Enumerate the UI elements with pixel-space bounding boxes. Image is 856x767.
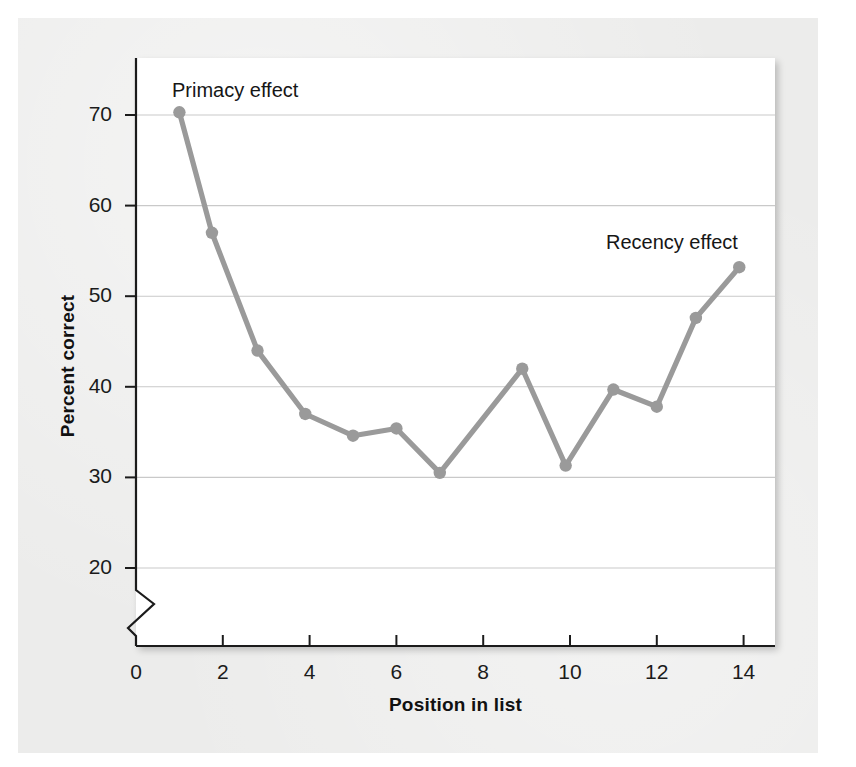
data-point xyxy=(251,344,263,356)
data-point xyxy=(434,467,446,479)
series-line xyxy=(179,112,739,473)
series-markers xyxy=(173,106,745,479)
x-tick-label: 4 xyxy=(290,660,330,684)
y-tick-label: 60 xyxy=(68,193,112,217)
y-tick-label: 70 xyxy=(68,102,112,126)
data-point xyxy=(733,261,745,273)
data-point xyxy=(299,408,311,420)
y-axis-label: Percent correct xyxy=(57,266,79,466)
data-point xyxy=(607,383,619,395)
gridlines xyxy=(136,115,775,568)
x-tick-label: 12 xyxy=(637,660,677,684)
data-point xyxy=(173,106,185,118)
y-axis-ticks xyxy=(125,115,136,568)
x-tick-label: 8 xyxy=(463,660,503,684)
data-point xyxy=(390,422,402,434)
figure-page: 203040506070 02468101214 Percent correct… xyxy=(0,0,856,767)
data-point xyxy=(690,312,702,324)
x-tick-label: 0 xyxy=(116,660,156,684)
line-chart xyxy=(0,0,856,767)
data-point xyxy=(651,401,663,413)
axis-lines xyxy=(128,58,775,646)
x-axis-ticks xyxy=(223,635,744,646)
annotation-recency-effect: Recency effect xyxy=(606,231,738,254)
data-point xyxy=(347,430,359,442)
x-tick-label: 2 xyxy=(203,660,243,684)
x-tick-label: 10 xyxy=(550,660,590,684)
x-tick-label: 14 xyxy=(724,660,764,684)
data-point xyxy=(206,227,218,239)
data-series xyxy=(173,106,745,479)
data-point xyxy=(559,459,571,471)
y-tick-label: 30 xyxy=(68,464,112,488)
annotation-primacy-effect: Primacy effect xyxy=(172,79,298,102)
y-tick-label: 20 xyxy=(68,555,112,579)
x-tick-label: 6 xyxy=(376,660,416,684)
data-point xyxy=(516,362,528,374)
x-axis-label: Position in list xyxy=(136,694,775,716)
